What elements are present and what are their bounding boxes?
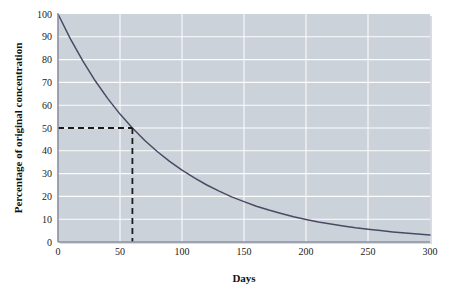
x-tick-label-50: 50	[115, 246, 125, 257]
y-tick-label-90: 90	[42, 31, 52, 42]
x-tick-label-150: 150	[237, 246, 252, 257]
chart-figure: 0102030405060708090100 05010015020025030…	[0, 0, 449, 295]
x-tick-label-300: 300	[423, 246, 438, 257]
x-tick-label-250: 250	[361, 246, 376, 257]
x-tick-label-0: 0	[56, 246, 61, 257]
y-tick-label-70: 70	[42, 77, 52, 88]
y-tick-label-80: 80	[42, 54, 52, 65]
y-tick-label-40: 40	[42, 145, 52, 156]
x-tick-label-200: 200	[299, 246, 314, 257]
x-tick-label-100: 100	[175, 246, 190, 257]
y-tick-label-10: 10	[42, 214, 52, 225]
x-axis-title: Days	[232, 272, 256, 284]
y-tick-label-60: 60	[42, 100, 52, 111]
y-tick-label-20: 20	[42, 191, 52, 202]
y-tick-label-30: 30	[42, 168, 52, 179]
y-tick-label-0: 0	[47, 237, 52, 248]
y-tick-label-50: 50	[42, 123, 52, 134]
y-tick-label-100: 100	[37, 9, 52, 20]
y-axis-title: Percentage of original concentration	[12, 43, 24, 214]
decay-curve-chart: 0102030405060708090100 05010015020025030…	[0, 0, 449, 295]
